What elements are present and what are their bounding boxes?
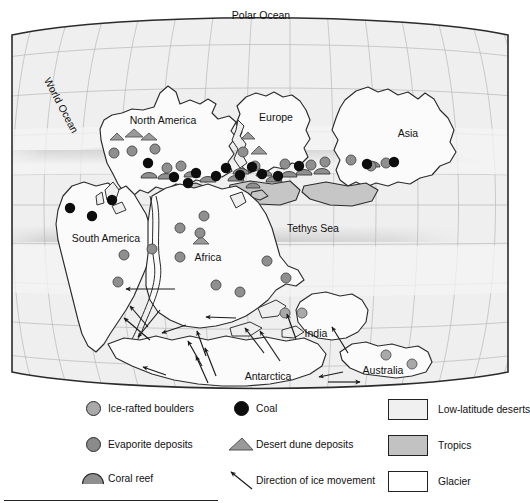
- footer-rule: [4, 500, 218, 501]
- coal-symbol: [143, 158, 153, 168]
- legend-label: Direction of ice movement: [256, 475, 375, 486]
- evaporite-deposits-icon: [78, 437, 108, 452]
- coal-symbol: [169, 172, 179, 182]
- coal-symbol: [87, 211, 97, 221]
- coal-icon: [226, 401, 256, 416]
- label-south-america: South America: [72, 232, 140, 244]
- coal-symbol: [211, 171, 221, 181]
- evaporite-symbol: [109, 148, 119, 158]
- evaporite-symbol: [175, 252, 185, 262]
- paleogeographic-map: Polar Ocean World Ocean North America Eu…: [0, 0, 523, 400]
- coal-symbol: [191, 168, 201, 178]
- label-australia: Australia: [363, 364, 404, 376]
- evaporite-symbol: [346, 155, 356, 165]
- legend-item-evaporite-deposits: Evaporite deposits: [78, 437, 193, 452]
- evaporite-symbol: [127, 146, 137, 156]
- coal-symbol: [183, 178, 193, 188]
- evaporite-symbol: [162, 163, 172, 173]
- coal-symbol: [65, 203, 75, 213]
- evaporite-symbol: [281, 273, 291, 283]
- low-latitude-deserts-swatch: [388, 399, 438, 420]
- evaporite-symbol: [280, 159, 290, 169]
- label-tethys-sea: Tethys Sea: [287, 222, 339, 234]
- legend-label: Coral reef: [108, 473, 153, 484]
- coal-symbol: [235, 170, 245, 180]
- legend-label: Coal: [256, 403, 277, 414]
- desert-dune-deposits-icon: [226, 437, 256, 451]
- legend-item-coal: Coal: [226, 401, 277, 416]
- ice-rafted-boulder-symbol: [381, 350, 391, 360]
- evaporite-symbol: [306, 160, 316, 170]
- legend-label: Ice-rafted boulders: [108, 403, 194, 414]
- legend-label: Glacier: [438, 476, 471, 487]
- evaporite-symbol: [113, 277, 123, 287]
- legend-label: Low-latitude deserts: [438, 404, 530, 415]
- evaporite-symbol: [150, 144, 160, 154]
- ice-movement-arrow-icon: [226, 469, 256, 491]
- evaporite-symbol: [199, 211, 209, 221]
- legend-item-tropics: Tropics: [388, 435, 471, 456]
- legend-item-coral-reef: Coral reef: [78, 473, 153, 484]
- legend-label: Desert dune deposits: [256, 439, 353, 450]
- evaporite-symbol: [238, 147, 248, 157]
- coal-symbol: [294, 161, 304, 171]
- label-north-america: North America: [130, 114, 197, 126]
- legend-item-glacier: Glacier: [388, 471, 471, 492]
- evaporite-symbol: [320, 157, 330, 167]
- evaporite-symbol: [235, 287, 245, 297]
- evaporite-symbol: [147, 244, 157, 254]
- label-europe: Europe: [259, 111, 293, 123]
- legend-item-low-latitude-deserts: Low-latitude deserts: [388, 399, 530, 420]
- coal-symbol: [362, 159, 372, 169]
- legend: Ice-rafted boulders Evaporite deposits C…: [0, 396, 523, 503]
- coal-symbol: [273, 171, 283, 181]
- evaporite-symbol: [211, 280, 221, 290]
- evaporite-symbol: [176, 161, 186, 171]
- label-india: India: [305, 327, 328, 339]
- evaporite-symbol: [195, 228, 205, 238]
- legend-item-ice-rafted-boulders: Ice-rafted boulders: [78, 401, 194, 416]
- coal-symbol: [257, 169, 267, 179]
- glacier-swatch: [388, 471, 438, 492]
- coral-reef-icon: [78, 473, 108, 484]
- legend-label: Evaporite deposits: [108, 439, 193, 450]
- evaporite-symbol: [262, 256, 272, 266]
- ice-rafted-boulder-symbol: [297, 308, 307, 318]
- legend-item-desert-dune-deposits: Desert dune deposits: [226, 437, 353, 451]
- coal-symbol: [221, 163, 231, 173]
- legend-label: Tropics: [438, 440, 471, 451]
- coal-symbol: [247, 162, 257, 172]
- evaporite-symbol: [119, 250, 129, 260]
- label-africa: Africa: [195, 251, 222, 263]
- tropics-swatch: [388, 435, 438, 456]
- coal-symbol: [389, 157, 399, 167]
- map-body: [0, 0, 523, 400]
- label-antarctica: Antarctica: [245, 370, 292, 382]
- label-asia: Asia: [398, 127, 419, 139]
- legend-item-direction-of-ice-movement: Direction of ice movement: [226, 469, 375, 491]
- ice-rafted-boulder-symbol: [407, 359, 417, 369]
- evaporite-symbol: [175, 223, 185, 233]
- coal-symbol: [107, 195, 117, 205]
- label-polar-ocean: Polar Ocean: [232, 9, 291, 21]
- ice-rafted-boulders-icon: [78, 401, 108, 416]
